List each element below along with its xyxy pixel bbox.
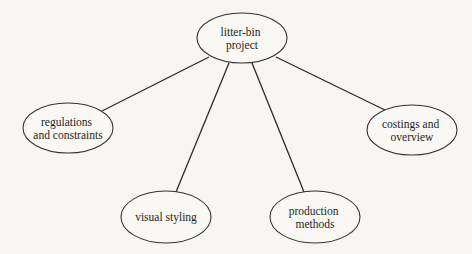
node-label-line: visual styling <box>135 211 197 224</box>
edge-root-costings <box>276 57 389 112</box>
node-label: production methods <box>289 205 342 230</box>
node-label-line: costings and <box>382 118 439 131</box>
node-label-line: regulations <box>41 116 93 129</box>
node-label: litter-bin project <box>221 26 264 52</box>
node-label-line: methods <box>296 218 335 230</box>
node-label-line: litter-bin <box>221 26 261 38</box>
edge-root-regulations <box>102 57 209 111</box>
node-label: visual styling <box>135 211 197 224</box>
node-label-line: production <box>289 205 339 218</box>
node-label-line: project <box>226 39 259 52</box>
node-label-line: and constraints <box>33 129 103 141</box>
connectors <box>102 57 389 192</box>
edge-root-visual-styling <box>176 63 229 192</box>
node-litter-bin-project: litter-bin project <box>197 13 287 63</box>
node-production-methods: production methods <box>270 191 360 243</box>
edge-root-production <box>252 63 304 192</box>
node-visual-styling: visual styling <box>121 191 211 243</box>
node-regulations-and-constraints: regulations and constraints <box>23 103 113 153</box>
mind-map-diagram: litter-bin project regulations and const… <box>0 0 472 254</box>
node-costings-and-overview: costings and overview <box>367 105 457 155</box>
node-label-line: overview <box>391 131 434 143</box>
node-label: costings and overview <box>382 118 442 143</box>
node-label: regulations and constraints <box>33 116 103 141</box>
